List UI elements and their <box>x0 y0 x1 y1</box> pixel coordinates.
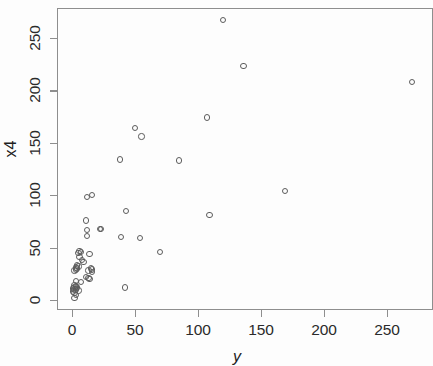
y-tick-label: 50 <box>26 239 44 256</box>
data-points-layer <box>0 0 433 366</box>
y-tick-label: 250 <box>26 25 44 50</box>
x-tick <box>135 310 136 317</box>
data-point <box>240 63 246 69</box>
data-point <box>409 79 415 85</box>
x-tick <box>324 310 325 317</box>
y-axis-title: x4 <box>2 141 20 158</box>
data-point <box>204 114 210 120</box>
y-tick <box>50 90 57 91</box>
data-point <box>157 249 163 255</box>
y-tick <box>50 195 57 196</box>
data-point <box>83 217 89 223</box>
data-point <box>98 226 104 232</box>
data-point <box>282 188 288 194</box>
y-tick-label: 0 <box>26 296 44 304</box>
data-point <box>176 157 182 163</box>
x-tick <box>387 310 388 317</box>
data-point <box>132 125 138 131</box>
x-axis-title: y <box>233 348 241 366</box>
data-point <box>123 208 129 214</box>
x-tick-label: 150 <box>248 321 273 339</box>
y-tick-label: 100 <box>26 183 44 208</box>
x-tick-label: 50 <box>127 321 144 339</box>
x-tick <box>261 310 262 317</box>
y-tick <box>50 38 57 39</box>
scatter-plot-figure: 050100150200250 050100150200250 y x4 <box>0 0 433 366</box>
data-point <box>84 233 90 239</box>
data-point <box>138 133 144 139</box>
data-point <box>86 251 92 257</box>
y-tick-label: 150 <box>26 130 44 155</box>
data-point <box>118 234 124 240</box>
data-point <box>206 212 212 218</box>
data-point <box>89 269 95 275</box>
x-tick-label: 100 <box>185 321 210 339</box>
data-point <box>86 276 92 282</box>
y-tick <box>50 248 57 249</box>
data-point <box>220 17 226 23</box>
y-tick <box>50 300 57 301</box>
data-point <box>71 267 77 273</box>
y-tick-label: 200 <box>26 78 44 103</box>
x-tick-label: 200 <box>311 321 336 339</box>
data-point <box>137 235 143 241</box>
data-point <box>71 295 77 301</box>
data-point <box>122 284 128 290</box>
y-tick <box>50 143 57 144</box>
x-tick <box>198 310 199 317</box>
x-tick <box>72 310 73 317</box>
x-tick-label: 0 <box>68 321 76 339</box>
data-point <box>84 194 90 200</box>
x-tick-label: 250 <box>374 321 399 339</box>
data-point <box>117 156 123 162</box>
